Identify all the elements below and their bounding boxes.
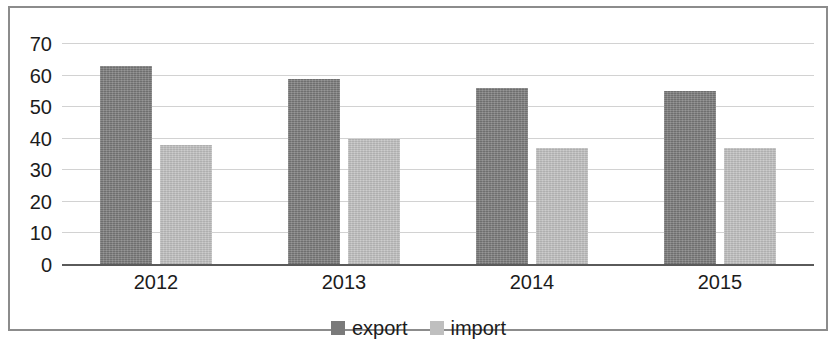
chart-frame-right-edge — [826, 6, 828, 331]
x-axis-category-labels: 2012201320142015 — [62, 272, 814, 292]
y-axis-tick-labels: 010203040506070 — [0, 44, 52, 265]
bar-group — [626, 44, 814, 265]
y-axis-tick-label: 20 — [6, 192, 52, 212]
y-axis-tick-label: 40 — [6, 129, 52, 149]
bar-groups — [62, 44, 814, 265]
bar-export-2015[interactable] — [664, 91, 716, 265]
legend-label-import: import — [451, 318, 507, 338]
bar-chart-figure: 010203040506070 2012201320142015 exporti… — [0, 0, 837, 362]
legend-entry-export[interactable]: export — [331, 318, 408, 338]
y-axis-tick-label: 30 — [6, 160, 52, 180]
y-axis-tick-label: 60 — [6, 66, 52, 86]
bar-group — [62, 44, 250, 265]
y-axis-tick-label: 70 — [6, 34, 52, 54]
bar-export-2012[interactable] — [100, 66, 152, 265]
x-axis-label-2014: 2014 — [438, 272, 626, 292]
bar-export-2014[interactable] — [476, 88, 528, 265]
bar-group — [438, 44, 626, 265]
bar-import-2014[interactable] — [536, 148, 588, 265]
x-axis-line — [62, 264, 814, 266]
y-axis-tick-label: 10 — [6, 223, 52, 243]
x-axis-label-2013: 2013 — [250, 272, 438, 292]
legend-label-export: export — [352, 318, 408, 338]
legend-swatch-import-icon — [430, 321, 444, 335]
y-axis-tick-label: 50 — [6, 97, 52, 117]
bar-import-2013[interactable] — [348, 139, 400, 265]
bar-export-2013[interactable] — [288, 79, 340, 265]
legend-swatch-export-icon — [331, 321, 345, 335]
x-axis-label-2015: 2015 — [626, 272, 814, 292]
plot-area — [62, 44, 814, 265]
bar-import-2012[interactable] — [160, 145, 212, 265]
bar-group — [250, 44, 438, 265]
chart-frame-top-edge — [8, 6, 828, 8]
chart-legend: exportimport — [0, 318, 837, 338]
y-axis-tick-label: 0 — [6, 255, 52, 275]
bar-import-2015[interactable] — [724, 148, 776, 265]
x-axis-label-2012: 2012 — [62, 272, 250, 292]
legend-entry-import[interactable]: import — [430, 318, 507, 338]
